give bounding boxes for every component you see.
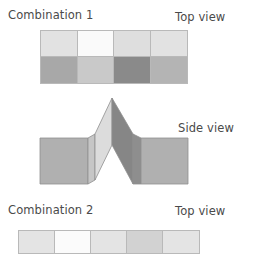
- grid-cell: [41, 57, 78, 83]
- combination-1-top-view-grid: [40, 30, 188, 84]
- grid-cell: [163, 231, 199, 253]
- grid-cell: [41, 31, 78, 57]
- grid-cell: [55, 231, 91, 253]
- combination-1-side-view: [0, 90, 256, 195]
- folded-plate-side-view-shape: [0, 90, 256, 195]
- side-view-peak-right-face: [112, 98, 133, 184]
- combination-2-top-view-grid: [18, 230, 200, 254]
- combination-1-view-label: Top view: [175, 12, 225, 24]
- combination-2-view-label: Top view: [175, 206, 225, 218]
- combination-2-title: Combination 2: [8, 205, 93, 217]
- grid-cell: [78, 57, 115, 83]
- grid-cell: [19, 231, 55, 253]
- grid-cell: [127, 231, 163, 253]
- side-view-right-panel: [141, 138, 188, 184]
- grid-cell: [151, 31, 188, 57]
- grid-cell: [151, 57, 188, 83]
- side-view-left-panel: [40, 138, 88, 184]
- combination-1-title: Combination 1: [8, 10, 93, 22]
- grid-cell: [78, 31, 115, 57]
- grid-cell: [91, 231, 127, 253]
- grid-cell: [114, 57, 151, 83]
- side-view-left-panel-edge: [88, 134, 95, 184]
- grid-cell: [114, 31, 151, 57]
- side-view-right-panel-edge: [133, 134, 141, 184]
- side-view-peak-left-face: [95, 98, 112, 180]
